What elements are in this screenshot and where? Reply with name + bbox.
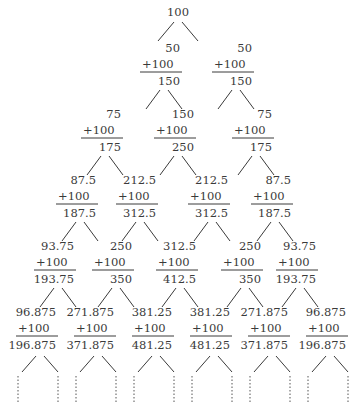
node-addend: +100: [83, 123, 115, 137]
edge-line: [218, 90, 232, 109]
node-top-value: 381.25: [190, 305, 230, 319]
node-sum-value: 350: [110, 272, 132, 286]
node-sum-value: 481.25: [190, 338, 230, 352]
edge-line: [80, 356, 94, 372]
edge-line: [160, 156, 174, 175]
edge-line: [120, 288, 134, 307]
node-top-value: 271.875: [66, 305, 114, 319]
node-top-value: 250: [110, 239, 132, 253]
node-sum-value: 175: [99, 140, 121, 154]
node-top-value: 75: [106, 107, 121, 121]
node-addend: +100: [234, 123, 266, 137]
node-sum-value: 187.5: [258, 206, 291, 220]
edge-line: [146, 90, 160, 109]
node-addend: +100: [142, 57, 174, 71]
node-addend: +100: [58, 189, 90, 203]
edge-line: [109, 156, 123, 175]
edge-line: [240, 90, 254, 109]
edge-line: [182, 22, 198, 41]
node-top-value: 87.5: [70, 173, 96, 187]
edge-line: [22, 356, 36, 372]
node-addend: +100: [134, 321, 166, 335]
edge-line: [138, 356, 152, 372]
node-addend: +100: [18, 321, 50, 335]
node-addend: +100: [308, 321, 340, 335]
node-sum-value: 481.25: [132, 338, 172, 352]
node-top-value: 271.875: [240, 305, 288, 319]
node-addend: +100: [214, 57, 246, 71]
node-addend: +100: [156, 123, 188, 137]
node-addend: +100: [94, 255, 126, 269]
node-addend: +100: [223, 255, 255, 269]
edge-line: [196, 356, 210, 372]
node-sum-value: 196.875: [8, 338, 56, 352]
node-addend: +100: [192, 321, 224, 335]
edge-line: [44, 356, 58, 372]
node-top-value: 50: [165, 41, 180, 55]
edge-line: [238, 156, 252, 175]
edge-line: [276, 356, 290, 372]
edge-line: [158, 22, 174, 41]
node-top-value: 50: [237, 41, 252, 55]
edge-line: [254, 356, 268, 372]
root-node-label: 100: [167, 5, 189, 19]
node-top-value: 93.75: [41, 239, 74, 253]
node-top-value: 93.75: [283, 239, 316, 253]
node-sum-value: 193.75: [34, 272, 74, 286]
node-sum-value: 150: [158, 74, 180, 88]
node-top-value: 87.5: [265, 173, 291, 187]
node-addend: +100: [253, 189, 285, 203]
node-top-value: 212.5: [195, 173, 228, 187]
node-sum-value: 196.875: [298, 338, 346, 352]
node-addend: +100: [278, 255, 310, 269]
edge-line: [160, 356, 174, 372]
edge-line: [194, 222, 208, 241]
node-sum-value: 350: [239, 272, 261, 286]
edge-line: [312, 356, 326, 372]
edge-line: [227, 288, 241, 307]
node-top-value: 96.875: [306, 305, 346, 319]
node-sum-value: 250: [172, 140, 194, 154]
node-addend: +100: [158, 255, 190, 269]
node-sum-value: 371.875: [66, 338, 114, 352]
node-sum-value: 312.5: [123, 206, 156, 220]
node-addend: +100: [190, 189, 222, 203]
edge-line: [257, 222, 271, 241]
node-addend: +100: [118, 189, 150, 203]
node-addend: +100: [36, 255, 68, 269]
node-sum-value: 371.875: [240, 338, 288, 352]
edge-line: [84, 222, 98, 241]
node-top-value: 150: [172, 107, 194, 121]
node-addend: +100: [76, 321, 108, 335]
node-sum-value: 150: [230, 74, 252, 88]
edge-line: [282, 288, 296, 307]
node-sum-value: 412.5: [163, 272, 196, 286]
node-sum-value: 312.5: [195, 206, 228, 220]
node-sum-value: 175: [250, 140, 272, 154]
addition-tree-diagram: 10050+10015050+10015075+100175150+100250…: [0, 0, 356, 404]
node-top-value: 312.5: [163, 239, 196, 253]
edge-line: [218, 356, 232, 372]
node-top-value: 96.875: [16, 305, 56, 319]
edge-line: [144, 222, 158, 241]
node-top-value: 212.5: [123, 173, 156, 187]
node-top-value: 250: [239, 239, 261, 253]
node-addend: +100: [250, 321, 282, 335]
node-top-value: 381.25: [132, 305, 172, 319]
node-sum-value: 187.5: [63, 206, 96, 220]
edge-line: [216, 222, 230, 241]
edge-line: [102, 356, 116, 372]
node-top-value: 75: [257, 107, 272, 121]
node-sum-value: 193.75: [276, 272, 316, 286]
edge-line: [334, 356, 348, 372]
edge-line: [182, 156, 196, 175]
